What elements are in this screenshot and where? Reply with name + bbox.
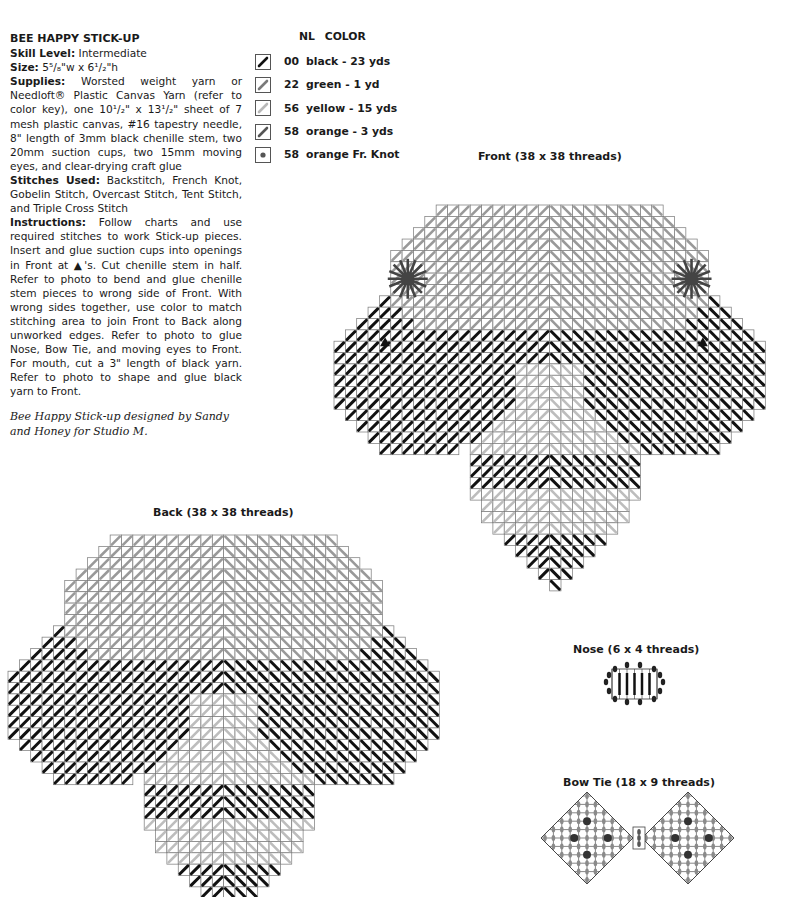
bowtie-chart [0,0,785,897]
